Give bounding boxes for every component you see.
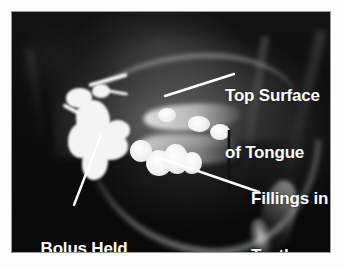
annotation-fillings-line-1: Fillings in <box>251 189 328 208</box>
annotation-fillings-in-teeth: Fillings in Teeth <box>251 151 328 253</box>
page-background: Top Surface of Tongue Fillings in Teeth … <box>0 0 343 268</box>
leader-line-tongue <box>165 74 234 96</box>
annotation-bolus-line-1: Bolus Held <box>14 239 154 253</box>
annotation-tongue-line-1: Top Surface <box>225 86 320 105</box>
annotation-fillings-line-2: Teeth <box>251 246 328 253</box>
leader-line-bolus <box>74 135 101 205</box>
annotation-bolus-held-against-teeth: Bolus Held Against Teeth <box>14 201 154 253</box>
radiograph-frame: Top Surface of Tongue Fillings in Teeth … <box>11 11 331 253</box>
